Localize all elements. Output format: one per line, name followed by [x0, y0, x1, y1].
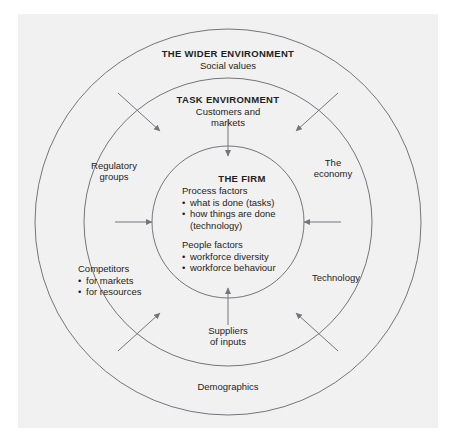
task-environment-subtitle-1: Customers and: [153, 106, 303, 118]
the-firm-title: THE FIRM: [182, 173, 302, 184]
spacer: [182, 231, 302, 239]
label-technology: Technology: [296, 272, 376, 284]
label-suppliers-line2: of inputs: [188, 336, 268, 348]
wider-environment-title: THE WIDER ENVIRONMENT: [128, 48, 328, 60]
list-item: what is done (tasks): [182, 197, 302, 209]
process-factors-heading: Process factors: [182, 185, 302, 197]
task-environment-subtitle-2: markets: [153, 117, 303, 129]
competitors-block: Competitors for markets for resources: [78, 263, 170, 298]
list-item: how things are done: [182, 208, 302, 220]
list-item: workforce diversity: [182, 251, 302, 263]
people-factors-heading: People factors: [182, 239, 302, 251]
label-the-economy-line1: The: [303, 157, 363, 169]
label-regulatory-groups-line1: Regulatory: [74, 160, 154, 172]
process-factors-group: Process factors what is done (tasks) how…: [182, 185, 302, 231]
competitors-list: for markets for resources: [78, 275, 170, 298]
process-factors-continuation: (technology): [182, 220, 302, 232]
wider-environment-subtitle: Social values: [128, 60, 328, 72]
people-factors-list: workforce diversity workforce behaviour: [182, 251, 302, 274]
label-suppliers-line1: Suppliers: [188, 325, 268, 337]
process-factors-list: what is done (tasks) how things are done: [182, 197, 302, 220]
label-the-economy-line2: economy: [303, 168, 363, 180]
label-regulatory-groups-line2: groups: [74, 171, 154, 183]
label-demographics: Demographics: [178, 381, 278, 393]
people-factors-group: People factors workforce diversity workf…: [182, 239, 302, 274]
list-item: for resources: [78, 286, 170, 298]
task-environment-title: TASK ENVIRONMENT: [153, 94, 303, 106]
the-firm-block: THE FIRM Process factors what is done (t…: [182, 173, 302, 274]
list-item: workforce behaviour: [182, 262, 302, 274]
list-item: for markets: [78, 275, 170, 287]
competitors-heading: Competitors: [78, 263, 170, 275]
